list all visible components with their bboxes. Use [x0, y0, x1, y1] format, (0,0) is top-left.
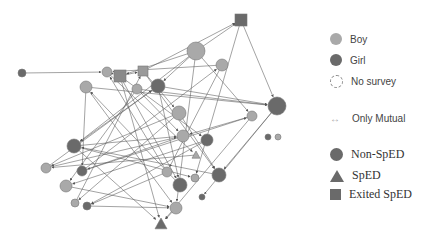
graph-node — [102, 67, 112, 77]
edge — [46, 138, 176, 168]
legend-boy-label: Boy — [350, 34, 367, 45]
legend-sped-label: SpED — [352, 168, 381, 183]
legend-girl: Girl — [330, 54, 366, 66]
graph-node — [67, 139, 81, 153]
edge — [92, 172, 167, 204]
edge — [82, 87, 86, 165]
edge — [86, 87, 267, 105]
graph-node — [216, 59, 228, 71]
graph-node — [265, 134, 271, 140]
legend-sped: SpED — [330, 168, 381, 183]
legend-non-sped-label: Non-SpED — [351, 147, 404, 162]
graph-node — [60, 180, 72, 192]
circle-shape-icon — [330, 148, 343, 161]
triangle-shape-icon — [330, 170, 344, 182]
graph-node — [18, 69, 26, 77]
legend-no-survey: No survey — [330, 75, 396, 88]
legend-exited-sped-label: Exited SpED — [349, 187, 412, 202]
graph-node — [132, 84, 142, 94]
no-survey-swatch-icon — [330, 75, 343, 88]
legend-no-survey-label: No survey — [351, 76, 396, 87]
legend-girl-label: Girl — [350, 55, 366, 66]
graph-node — [172, 106, 186, 120]
graph-node — [80, 81, 92, 93]
graph-node — [201, 134, 213, 146]
legend-mutual: ↔ Only Mutual — [330, 113, 405, 124]
legend: Boy Girl No survey ↔ Only Mutual Non-SpE… — [330, 0, 430, 241]
graph-node — [77, 166, 87, 176]
graph-node — [177, 130, 189, 142]
graph-node — [71, 199, 79, 207]
edge — [22, 72, 101, 73]
graph-node — [155, 218, 167, 229]
legend-exited-sped: Exited SpED — [330, 187, 412, 202]
graph-node — [170, 202, 182, 214]
graph-node — [114, 70, 126, 82]
edge — [158, 86, 267, 104]
graph-node — [247, 111, 257, 121]
graph-node — [212, 168, 226, 182]
nodes-layer — [18, 14, 286, 229]
graph-node — [162, 167, 172, 177]
legend-non-sped: Non-SpED — [330, 147, 404, 162]
graph-node — [187, 42, 205, 60]
graph-node — [41, 163, 51, 173]
graph-node — [192, 151, 200, 158]
square-shape-icon — [330, 189, 341, 200]
graph-node — [191, 174, 199, 182]
graph-node — [151, 79, 165, 93]
legend-mutual-label: Only Mutual — [352, 113, 405, 124]
graph-node — [235, 14, 247, 26]
network-graph — [0, 0, 310, 241]
double-arrow-icon: ↔ — [330, 113, 346, 124]
edge — [241, 20, 273, 97]
graph-node — [138, 66, 148, 76]
graph-node — [268, 97, 286, 115]
edge — [113, 65, 222, 72]
graph-node — [173, 178, 187, 192]
legend-boy: Boy — [330, 33, 367, 45]
edges-layer — [22, 20, 277, 219]
graph-node — [199, 194, 205, 200]
girl-swatch-icon — [330, 54, 342, 66]
boy-swatch-icon — [330, 33, 342, 45]
graph-node — [275, 134, 281, 140]
graph-node — [83, 202, 91, 210]
